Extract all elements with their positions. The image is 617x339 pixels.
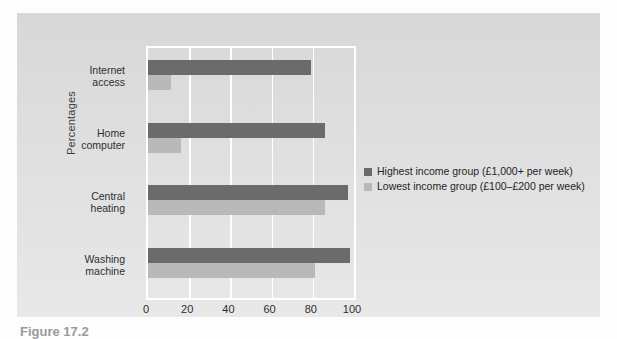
category-label-internet-access: Internet access — [57, 64, 125, 88]
bar-central-heating-highest — [148, 185, 348, 200]
figure-caption-text: Figure 17.2 — [20, 327, 89, 339]
figure-caption: Figure 17.2 — [20, 327, 89, 339]
x-tick-label-60: 60 — [263, 303, 275, 315]
bar-internet-access-highest — [148, 60, 311, 75]
x-tick-label-20: 20 — [181, 303, 193, 315]
scan-artefact-bottom-right-1: ­­ — [575, 271, 578, 280]
x-tick-label-100: 100 — [343, 303, 361, 315]
plot-area — [146, 46, 356, 300]
bar-central-heating-lowest — [148, 200, 325, 215]
legend: Highest income group (£1,000+ per week) … — [364, 165, 594, 195]
legend-item-lowest: Lowest income group (£100–£200 per week) — [364, 180, 594, 193]
legend-swatch-lowest-icon — [364, 183, 372, 191]
bar-home-computer-lowest — [148, 138, 181, 153]
figure-panel: ­­­ ­­ ­­­ Percentages Internet access H… — [17, 13, 600, 317]
bar-washing-machine-highest — [148, 248, 350, 263]
category-axis-labels: Internet access Home computer Central he… — [57, 46, 125, 300]
category-label-washing-machine: Washing machine — [57, 253, 125, 277]
bar-internet-access-lowest — [148, 75, 171, 90]
x-tick-label-80: 80 — [305, 303, 317, 315]
category-label-central-heating: Central heating — [57, 190, 125, 214]
bar-washing-machine-lowest — [148, 263, 315, 278]
scanned-page: ­­­ ­­ ­­­ Percentages Internet access H… — [0, 0, 617, 339]
plot-inner — [148, 48, 354, 298]
legend-swatch-highest-icon — [364, 168, 372, 176]
gridline-100 — [354, 48, 356, 298]
x-tick-label-0: 0 — [143, 303, 149, 315]
scan-artefact-bottom-right-2: ­­­ — [579, 285, 582, 294]
legend-label-highest: Highest income group (£1,000+ per week) — [377, 165, 573, 178]
legend-label-lowest: Lowest income group (£100–£200 per week) — [377, 180, 585, 193]
x-axis-labels: 020406080100 — [146, 303, 356, 321]
legend-item-highest: Highest income group (£1,000+ per week) — [364, 165, 594, 178]
scan-artefact-top-right: ­­­ — [579, 51, 582, 60]
category-label-home-computer: Home computer — [57, 127, 125, 151]
bar-home-computer-highest — [148, 123, 325, 138]
x-tick-label-40: 40 — [222, 303, 234, 315]
